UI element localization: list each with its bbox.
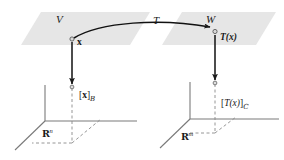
left-basis-label: B bbox=[90, 95, 95, 103]
right-basis-label: C bbox=[243, 103, 248, 111]
right-coordinate-dot bbox=[213, 81, 217, 85]
transformation-label: T bbox=[153, 15, 159, 26]
vector-t-of-x-label: T(x) bbox=[220, 33, 237, 43]
codomain-plane-shape bbox=[162, 12, 276, 45]
right-space-symbol: R bbox=[181, 131, 189, 142]
left-axis-depth bbox=[15, 121, 45, 150]
left-dashed-base-depth bbox=[72, 119, 101, 143]
right-space-exponent: m bbox=[189, 130, 194, 137]
left-coordinate-vector-label: [x]B bbox=[79, 91, 95, 103]
vector-t-of-x-dot bbox=[213, 29, 217, 33]
right-coordinate-vector-label: [T(x)]C bbox=[221, 99, 249, 111]
right-space-label: Rm bbox=[181, 131, 193, 143]
right-coordinate-vector-symbol: T(x) bbox=[224, 98, 240, 108]
domain-plane-shape bbox=[21, 12, 150, 45]
left-space-exponent: n bbox=[50, 127, 53, 134]
left-space-symbol: R bbox=[42, 128, 50, 139]
left-space-label: Rn bbox=[42, 128, 53, 140]
codomain-plane-label: W bbox=[206, 14, 215, 25]
vector-x-dot bbox=[70, 37, 74, 41]
vector-x-label: x bbox=[77, 38, 82, 48]
linear-transformation-diagram: V W T x T(x) [x]B [T(x)]C Rn Rm bbox=[0, 0, 284, 160]
domain-plane-label: V bbox=[56, 14, 63, 25]
vector-t-of-x-text: T(x) bbox=[220, 32, 237, 42]
left-coordinate-dot bbox=[70, 85, 74, 89]
